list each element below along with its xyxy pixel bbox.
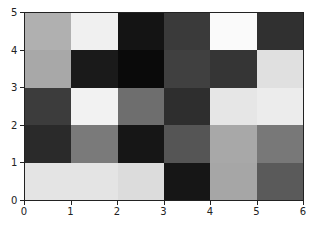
- heatmap-cell: [257, 163, 303, 200]
- x-tick-mark: [164, 201, 165, 205]
- heatmap-cell: [210, 88, 256, 125]
- x-tick-mark: [71, 201, 72, 205]
- heatmap-cell: [164, 88, 210, 125]
- x-tick-mark: [257, 201, 258, 205]
- heatmap-cell: [71, 88, 117, 125]
- heatmap-cell: [164, 50, 210, 87]
- heatmap-cell: [118, 13, 164, 50]
- y-tick-mark: [20, 12, 24, 13]
- heatmap-cell: [257, 125, 303, 162]
- y-tick-mark: [20, 125, 24, 126]
- y-tick-mark: [20, 200, 24, 201]
- heatmap-cell: [118, 163, 164, 200]
- heatmap-cell: [257, 88, 303, 125]
- heatmap-cell: [71, 13, 117, 50]
- heatmap-cell: [25, 125, 71, 162]
- x-tick-mark: [210, 201, 211, 205]
- heatmap-cell: [25, 13, 71, 50]
- heatmap-cell: [71, 163, 117, 200]
- y-tick-label: 1: [11, 157, 17, 168]
- x-tick-label: 1: [67, 206, 73, 217]
- x-tick-label: 2: [114, 206, 120, 217]
- heatmap-cell: [118, 88, 164, 125]
- heatmap-cell: [25, 163, 71, 200]
- heatmap-cell: [210, 50, 256, 87]
- heatmap-plot-area: [24, 12, 304, 201]
- heatmap-cell: [210, 13, 256, 50]
- x-tick-label: 0: [21, 206, 27, 217]
- heatmap-cell: [164, 125, 210, 162]
- y-tick-mark: [20, 50, 24, 51]
- y-tick-label: 0: [11, 195, 17, 206]
- x-tick-label: 4: [207, 206, 213, 217]
- y-tick-label: 2: [11, 119, 17, 130]
- heatmap-cell: [257, 13, 303, 50]
- y-tick-label: 4: [11, 44, 17, 55]
- y-tick-label: 3: [11, 82, 17, 93]
- heatmap-cell: [25, 50, 71, 87]
- x-tick-label: 5: [253, 206, 259, 217]
- x-tick-label: 3: [160, 206, 166, 217]
- heatmap-cell: [210, 125, 256, 162]
- x-tick-mark: [24, 201, 25, 205]
- x-tick-mark: [303, 201, 304, 205]
- y-tick-label: 5: [11, 7, 17, 18]
- x-tick-mark: [117, 201, 118, 205]
- heatmap-cell: [118, 50, 164, 87]
- heatmap-cell: [71, 50, 117, 87]
- heatmap-cell: [118, 125, 164, 162]
- y-tick-mark: [20, 162, 24, 163]
- heatmap-cell: [210, 163, 256, 200]
- x-tick-label: 6: [300, 206, 306, 217]
- heatmap-cell: [164, 13, 210, 50]
- heatmap-cell: [257, 50, 303, 87]
- heatmap-cell: [25, 88, 71, 125]
- heatmap-cell: [71, 125, 117, 162]
- heatmap-cell: [164, 163, 210, 200]
- y-tick-mark: [20, 87, 24, 88]
